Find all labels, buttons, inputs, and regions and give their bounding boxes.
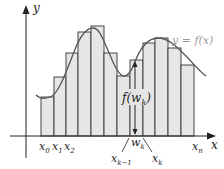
tick-label-x0: x0 — [39, 140, 50, 155]
tick-label-x1: x1 — [52, 140, 63, 155]
riemann-rectangle — [91, 26, 104, 136]
riemann-rectangle — [117, 76, 130, 136]
riemann-rectangle — [155, 38, 168, 136]
riemann-rectangle — [41, 97, 54, 136]
tick-label-xk-1: xk−1 — [111, 152, 132, 167]
riemann-sum-diagram: y x y = f(x) f(wk) x0 x1 x2 wk xk−1 xk x… — [0, 0, 224, 169]
tick-label-xk: xk — [152, 152, 162, 167]
height-label: f(wk) — [121, 91, 151, 107]
curve-label: y = f(x) — [171, 34, 213, 47]
riemann-rectangle — [78, 32, 91, 136]
riemann-rectangle — [181, 65, 194, 136]
tick-label-wk: wk — [131, 136, 145, 151]
y-axis-label: y — [32, 1, 40, 15]
riemann-rectangle — [66, 53, 78, 136]
riemann-rectangle — [168, 48, 181, 136]
tick-label-xn: xn — [192, 140, 203, 155]
x-axis-label: x — [211, 138, 218, 152]
xk-1-pointer — [122, 138, 129, 152]
y-axis-arrow-icon — [23, 5, 30, 14]
diagram-canvas: y x y = f(x) f(wk) x0 x1 x2 wk xk−1 xk x… — [0, 0, 224, 169]
tick-label-x2: x2 — [64, 140, 75, 155]
